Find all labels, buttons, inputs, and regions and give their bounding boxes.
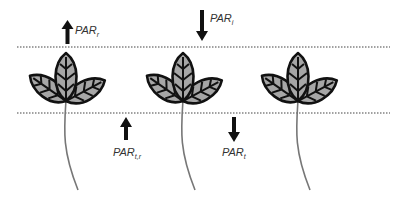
- canopy-par-diagram: PARr PARi PARt,r PARt: [0, 0, 403, 200]
- plant-3: [256, 53, 341, 110]
- plant-2: [141, 53, 226, 110]
- label-par-t-r: PARt,r: [113, 146, 141, 160]
- arrow-up-icon: [62, 20, 74, 44]
- label-par-r: PARr: [75, 24, 99, 38]
- plant-1: [24, 53, 109, 110]
- label-par-i: PARi: [210, 12, 233, 26]
- arrow-down-icon: [196, 10, 208, 41]
- label-par-t: PARt: [222, 146, 246, 160]
- arrow-up-icon: [120, 117, 132, 140]
- diagram-canvas: [0, 0, 403, 200]
- arrow-down-icon: [228, 117, 240, 142]
